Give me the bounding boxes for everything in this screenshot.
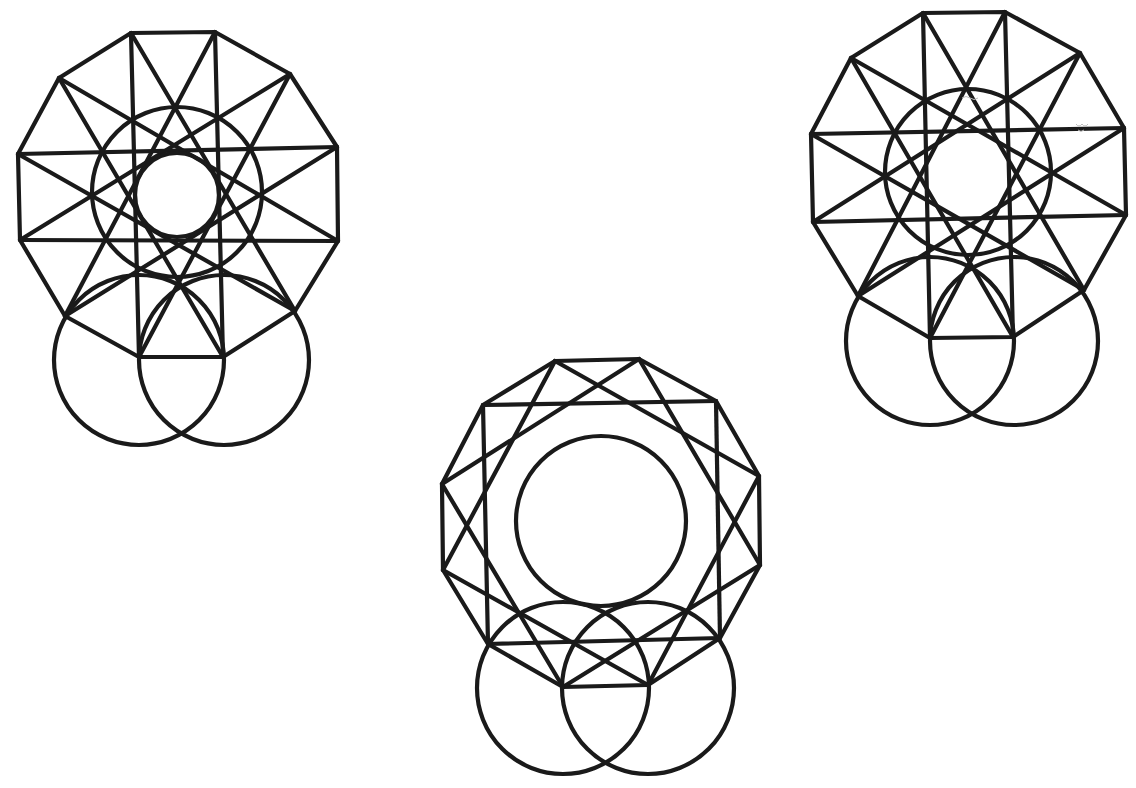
star-chord-line	[20, 240, 338, 241]
geometric-construction-canvas	[0, 0, 1136, 788]
